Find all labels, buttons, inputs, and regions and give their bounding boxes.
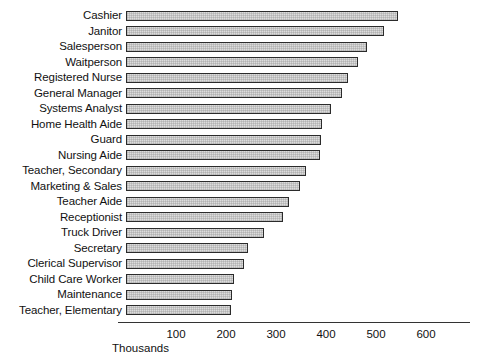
bar-row: Waitperson — [0, 55, 483, 71]
bar — [126, 243, 248, 253]
bar-track — [126, 228, 264, 238]
bar-track — [126, 88, 342, 98]
bar — [126, 11, 398, 21]
bar-category-label: Systems Analyst — [0, 102, 122, 115]
bar-category-label: Teacher Aide — [0, 195, 122, 208]
x-tick-label: 400 — [304, 327, 348, 341]
bar-category-label: Waitperson — [0, 56, 122, 69]
bar — [126, 73, 348, 83]
bar-track — [126, 290, 232, 300]
bar-category-label: Registered Nurse — [0, 71, 122, 84]
bar-category-label: Receptionist — [0, 211, 122, 224]
bar-category-label: Teacher, Secondary — [0, 164, 122, 177]
bar — [126, 259, 244, 269]
bar-track — [126, 274, 234, 284]
bar-category-label: General Manager — [0, 87, 122, 100]
bar-category-label: Salesperson — [0, 40, 122, 53]
bar-row: General Manager — [0, 86, 483, 102]
x-tick-label: 100 — [154, 327, 198, 341]
bar-track — [126, 150, 320, 160]
bar-category-label: Secretary — [0, 242, 122, 255]
x-tick-label: 300 — [254, 327, 298, 341]
x-axis-title: Thousands — [0, 341, 483, 355]
bar-row: Teacher, Secondary — [0, 163, 483, 179]
bar-row: Janitor — [0, 24, 483, 40]
bar-category-label: Maintenance — [0, 288, 122, 301]
bar-track — [126, 135, 321, 145]
bar-row: Home Health Aide — [0, 117, 483, 133]
bar-row: Secretary — [0, 241, 483, 257]
bar — [126, 57, 358, 67]
bar-row: Receptionist — [0, 210, 483, 226]
bar-row: Truck Driver — [0, 225, 483, 241]
bar-track — [126, 243, 248, 253]
bar — [126, 166, 306, 176]
x-axis-line — [118, 322, 470, 323]
bar-row: Guard — [0, 132, 483, 148]
bar-track — [126, 166, 306, 176]
bar-row: Marketing & Sales — [0, 179, 483, 195]
bar-row: Teacher Aide — [0, 194, 483, 210]
bar — [126, 305, 231, 315]
bar-row: Salesperson — [0, 39, 483, 55]
bar-category-label: Clerical Supervisor — [0, 257, 122, 270]
bar — [126, 135, 321, 145]
bar — [126, 290, 232, 300]
bar-category-label: Truck Driver — [0, 226, 122, 239]
bar-track — [126, 119, 322, 129]
bar-track — [126, 57, 358, 67]
bar-category-label: Cashier — [0, 9, 122, 22]
x-tick-label: 500 — [354, 327, 398, 341]
bar-track — [126, 26, 384, 36]
x-axis-title-text: Thousands — [112, 342, 169, 354]
x-tick-label: 200 — [204, 327, 248, 341]
bar — [126, 119, 322, 129]
bar — [126, 150, 320, 160]
bar-category-label: Child Care Worker — [0, 273, 122, 286]
bar — [126, 42, 367, 52]
bar-category-label: Guard — [0, 133, 122, 146]
bar-chart: CashierJanitorSalespersonWaitpersonRegis… — [0, 0, 483, 362]
bar-row: Nursing Aide — [0, 148, 483, 164]
bar-category-label: Nursing Aide — [0, 149, 122, 162]
bar-track — [126, 11, 398, 21]
bar — [126, 228, 264, 238]
bar-category-label: Home Health Aide — [0, 118, 122, 131]
bar-track — [126, 181, 300, 191]
bar — [126, 181, 300, 191]
bar — [126, 274, 234, 284]
bar-track — [126, 305, 231, 315]
bar — [126, 212, 283, 222]
bar-row: Systems Analyst — [0, 101, 483, 117]
bar-category-label: Teacher, Elementary — [0, 304, 122, 317]
bar-row: Child Care Worker — [0, 272, 483, 288]
bar-category-label: Marketing & Sales — [0, 180, 122, 193]
bar — [126, 26, 384, 36]
bar-track — [126, 259, 244, 269]
bar-category-label: Janitor — [0, 25, 122, 38]
bar-row: Cashier — [0, 8, 483, 24]
bar-row: Registered Nurse — [0, 70, 483, 86]
x-tick-label: 600 — [404, 327, 448, 341]
plot-area: CashierJanitorSalespersonWaitpersonRegis… — [0, 0, 483, 322]
bar-track — [126, 104, 331, 114]
bar — [126, 88, 342, 98]
bar — [126, 197, 289, 207]
bar-track — [126, 42, 367, 52]
bar-track — [126, 197, 289, 207]
bar-track — [126, 73, 348, 83]
bar-track — [126, 212, 283, 222]
bar-row: Maintenance — [0, 287, 483, 303]
bar-row: Teacher, Elementary — [0, 303, 483, 319]
bar — [126, 104, 331, 114]
bar-row: Clerical Supervisor — [0, 256, 483, 272]
